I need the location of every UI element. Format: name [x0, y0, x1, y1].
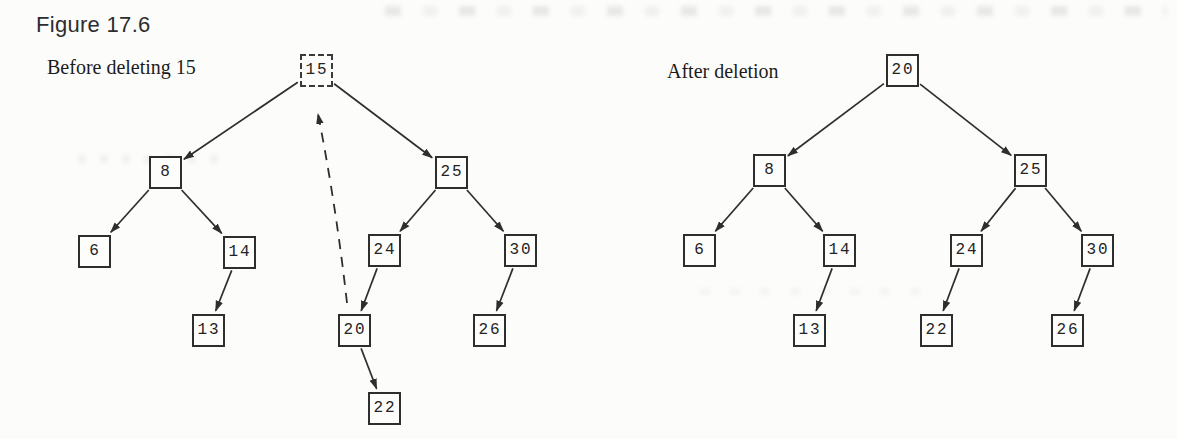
edge-after-30-26: [1074, 268, 1090, 310]
edge-before-30-26: [497, 268, 513, 310]
edge-after-8-6: [715, 188, 753, 231]
tree-before-node-13: 13: [192, 314, 225, 347]
edge-before-25-24: [400, 190, 435, 231]
tree-before-node-14: 14: [223, 236, 256, 269]
tree-before-node-22: 22: [368, 392, 401, 425]
edge-before-8-14: [182, 190, 222, 233]
edge-after-25-24: [981, 188, 1016, 231]
tree-before-node-26: 26: [473, 314, 506, 347]
tree-after-node-8: 8: [753, 154, 786, 187]
tree-before-node-15: 15: [300, 54, 333, 87]
edge-after-14-13: [816, 268, 832, 310]
tree-before-node-24: 24: [368, 234, 401, 267]
tree-after-node-30: 30: [1081, 234, 1114, 267]
edge-after-25-30: [1045, 188, 1081, 231]
tree-after-node-6: 6: [683, 234, 716, 267]
edge-before-8-6: [111, 190, 149, 232]
edge-before-25-30: [467, 190, 504, 231]
tree-before-node-25: 25: [435, 156, 468, 189]
edge-before-15-8: [184, 82, 298, 159]
dashed-arrow-20-to-15: [318, 114, 347, 303]
edge-before-20-22: [361, 348, 377, 388]
tree-after-node-20: 20: [886, 54, 919, 87]
tree-after-node-13: 13: [793, 314, 826, 347]
edge-before-15-25: [334, 84, 432, 158]
tree-after-node-25: 25: [1014, 154, 1047, 187]
edge-before-24-20: [361, 268, 377, 310]
tree-after-node-14: 14: [823, 234, 856, 267]
tree-after-node-22: 22: [920, 314, 953, 347]
tree-before-node-20: 20: [338, 314, 371, 347]
tree-before-node-6: 6: [78, 235, 111, 268]
tree-after-node-24: 24: [950, 234, 983, 267]
tree-before-node-30: 30: [504, 234, 537, 267]
figure-page: Figure 17.6 Before deleting 15 After del…: [0, 0, 1177, 439]
tree-edges-layer: [0, 0, 1177, 439]
edge-before-14-13: [216, 270, 232, 310]
edge-after-8-14: [785, 188, 823, 231]
edge-after-20-8: [788, 84, 884, 156]
edge-after-24-22: [943, 268, 959, 310]
edge-after-20-25: [920, 84, 1011, 155]
tree-before-node-8: 8: [149, 156, 182, 189]
tree-after-node-26: 26: [1051, 314, 1084, 347]
